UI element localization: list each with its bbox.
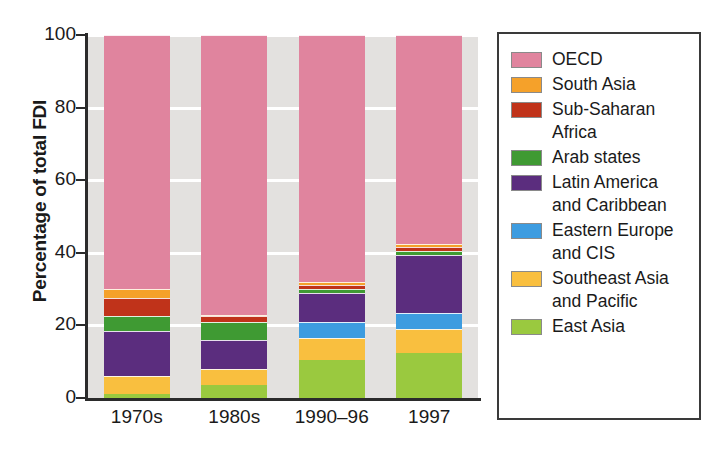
bar-1970s — [104, 35, 170, 398]
x-axis-line — [85, 398, 481, 401]
legend: OECDSouth AsiaSub-Saharan AfricaArab sta… — [497, 32, 701, 420]
x-tick-label: 1990–96 — [277, 406, 387, 428]
bar-segment — [396, 244, 462, 248]
legend-label: OECD — [552, 48, 603, 71]
bar-segment — [396, 329, 462, 353]
legend-label: Sub-Saharan Africa — [552, 98, 655, 144]
bar-segment — [396, 255, 462, 313]
legend-label: Arab states — [552, 146, 641, 169]
y-tick-label: 20 — [32, 313, 76, 335]
bar-segment — [299, 35, 365, 282]
bar-segment — [104, 331, 170, 376]
y-axis-ticks: 020406080100 — [0, 0, 76, 455]
bar-segment — [104, 289, 170, 298]
x-tick-label: 1997 — [374, 406, 484, 428]
bar-segment — [396, 353, 462, 398]
bar-segment — [104, 394, 170, 398]
legend-item: Eastern Europe and CIS — [511, 219, 699, 265]
legend-swatch-icon — [511, 175, 542, 191]
legend-label: Southeast Asia and Pacific — [552, 267, 669, 313]
bar-segment — [396, 251, 462, 255]
legend-swatch-icon — [511, 319, 542, 335]
bar-segment — [201, 385, 267, 398]
bar-segment — [299, 293, 365, 322]
legend-item: Sub-Saharan Africa — [511, 98, 699, 144]
bar-segment — [396, 35, 462, 244]
bar-segment — [104, 35, 170, 289]
bar-segment — [299, 338, 365, 360]
bar-segment — [104, 316, 170, 331]
x-tick-label: 1980s — [179, 406, 289, 428]
bar-segment — [396, 247, 462, 251]
bar-1980s — [201, 35, 267, 398]
bar-segment — [299, 360, 365, 398]
legend-item: OECD — [511, 48, 699, 71]
legend-item: Latin America and Caribbean — [511, 171, 699, 217]
bar-segment — [299, 289, 365, 293]
bar-segment — [201, 322, 267, 340]
legend-swatch-icon — [511, 102, 542, 118]
legend-label: South Asia — [552, 73, 636, 96]
y-tick-label: 60 — [32, 168, 76, 190]
legend-swatch-icon — [511, 77, 542, 93]
legend-item: South Asia — [511, 73, 699, 96]
legend-label: East Asia — [552, 315, 625, 338]
legend-swatch-icon — [511, 150, 542, 166]
y-tick-label: 40 — [32, 241, 76, 263]
legend-item: Arab states — [511, 146, 699, 169]
y-tick-label: 100 — [32, 23, 76, 45]
bar-segment — [201, 340, 267, 369]
bar-segment — [104, 376, 170, 394]
bar-segment — [201, 35, 267, 315]
legend-label: Eastern Europe and CIS — [552, 219, 674, 265]
y-tick-label: 0 — [32, 386, 76, 408]
x-tick-label: 1970s — [82, 406, 192, 428]
bar-segment — [201, 316, 267, 321]
legend-item: Southeast Asia and Pacific — [511, 267, 699, 313]
legend-item: East Asia — [511, 315, 699, 338]
bar-segment — [104, 298, 170, 316]
plot-area — [88, 35, 478, 398]
bar-segment — [299, 285, 365, 289]
legend-label: Latin America and Caribbean — [552, 171, 667, 217]
y-tick-label: 80 — [32, 96, 76, 118]
bar-199096 — [299, 35, 365, 398]
legend-swatch-icon — [511, 52, 542, 68]
bar-segment — [299, 282, 365, 286]
bar-segment — [201, 369, 267, 385]
legend-swatch-icon — [511, 223, 542, 239]
legend-swatch-icon — [511, 271, 542, 287]
bar-segment — [201, 315, 267, 317]
fdi-share-stacked-bar-chart: Percentage of total FDI 020406080100 197… — [0, 0, 714, 455]
bar-1997 — [396, 35, 462, 398]
bar-segment — [396, 313, 462, 329]
bar-segment — [299, 322, 365, 338]
